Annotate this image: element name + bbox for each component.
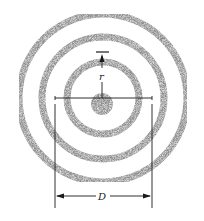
radius-label: r (99, 71, 105, 82)
radius-arrowhead-icon (100, 54, 105, 62)
diameter-label: D (97, 191, 106, 202)
concentric-rings-diagram: r D (0, 0, 204, 221)
right-arrowhead-icon (143, 194, 151, 199)
left-arrowhead-icon (56, 194, 64, 199)
